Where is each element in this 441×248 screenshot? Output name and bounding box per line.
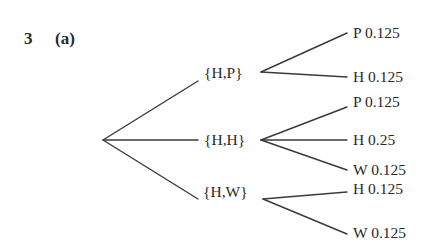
branch-hp-h	[261, 72, 347, 77]
leaf-hh-p: P 0.125	[353, 94, 400, 110]
node-hp: {H,P}	[204, 65, 243, 81]
branch-root-hw	[103, 140, 198, 199]
branch-hp-p	[261, 33, 347, 72]
branch-hh-w	[261, 140, 347, 170]
node-hh: {H,H}	[204, 132, 245, 148]
branch-root-hp	[103, 81, 198, 140]
branch-hw-w	[263, 199, 347, 234]
branch-hw-h	[263, 192, 347, 199]
leaf-hh-h: H 0.25	[353, 132, 395, 148]
leaf-hw-w: W 0.125	[353, 225, 406, 241]
leaf-hh-w: W 0.125	[353, 162, 406, 178]
leaf-hp-p: P 0.125	[353, 25, 400, 41]
leaf-hp-h: H 0.125	[353, 69, 403, 85]
branch-hh-p	[261, 107, 347, 140]
leaf-hw-h: H 0.125	[353, 181, 403, 197]
node-hw: {H,W}	[203, 184, 248, 200]
